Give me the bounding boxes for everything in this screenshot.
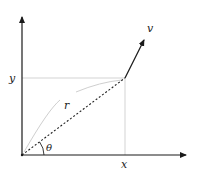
r-arc-upper: [76, 80, 122, 92]
radius-line: [22, 78, 125, 155]
label-y: y: [8, 72, 16, 85]
r-arc: [24, 100, 60, 152]
polar-coordinates-diagram: v y x r θ: [0, 0, 198, 177]
theta-arc: [40, 142, 44, 155]
label-v: v: [147, 22, 154, 35]
label-x: x: [121, 158, 128, 171]
label-r: r: [64, 99, 70, 112]
label-theta: θ: [46, 142, 52, 153]
velocity-vector: [125, 40, 144, 78]
origin-point: [21, 154, 23, 156]
